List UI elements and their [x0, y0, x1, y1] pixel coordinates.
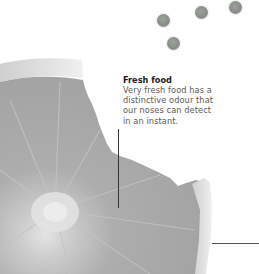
callout-leader-line [118, 129, 119, 208]
scent-particle-icon [229, 1, 242, 14]
secondary-leader-line [212, 243, 259, 244]
fresh-food-callout: Fresh food Very fresh food has a distinc… [123, 75, 233, 126]
callout-line: our noses can detect [123, 105, 233, 115]
callout-title: Fresh food [123, 75, 233, 85]
scent-particle-icon [157, 14, 170, 27]
orange-slice-image [0, 0, 259, 274]
callout-line: in an instant. [123, 116, 233, 126]
fresh-food-illustration: Fresh food Very fresh food has a distinc… [0, 0, 259, 274]
callout-line: distinctive odour that [123, 95, 233, 105]
callout-line: Very fresh food has a [123, 85, 233, 95]
scent-particle-icon [195, 6, 208, 19]
scent-particle-icon [167, 37, 180, 50]
